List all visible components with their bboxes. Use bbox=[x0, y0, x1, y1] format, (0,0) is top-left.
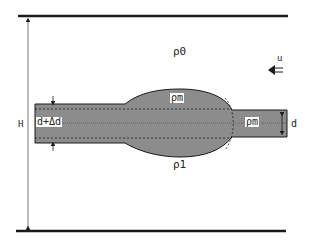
thickness-perturbed-label: d+Δd bbox=[36, 117, 62, 127]
thickness-label: d bbox=[291, 119, 297, 129]
height-label: H bbox=[18, 120, 23, 129]
rho-band-label: ρm bbox=[245, 117, 259, 127]
velocity-label: u bbox=[277, 54, 282, 63]
velocity-arrow-head bbox=[268, 65, 275, 75]
rho-upper-label: ρ0 bbox=[173, 46, 186, 57]
rho-bulge-label: ρm bbox=[170, 93, 184, 103]
rho-lower-label: ρ1 bbox=[173, 159, 186, 170]
